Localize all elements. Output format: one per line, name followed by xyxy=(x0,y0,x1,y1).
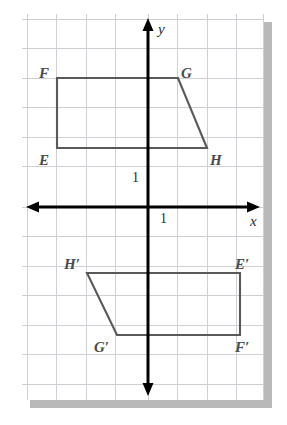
y-axis-label: y xyxy=(158,22,165,37)
y-axis-arrow-down xyxy=(143,383,154,396)
x-axis-arrow-right xyxy=(247,202,260,213)
graph-svg xyxy=(22,14,264,400)
x-axis-arrow-left xyxy=(26,202,39,213)
polygon-HGFE-prime xyxy=(87,273,240,335)
vertex-label-E: E xyxy=(39,153,49,168)
x-axis-label: x xyxy=(250,214,257,229)
y-axis-arrow-up xyxy=(143,18,154,31)
vertex-label-F-prime: F′ xyxy=(235,340,249,355)
vertex-label-G-prime: G′ xyxy=(94,340,109,355)
vertex-label-F: F xyxy=(39,66,49,81)
x-unit-label: 1 xyxy=(160,212,167,226)
y-unit-label: 1 xyxy=(132,171,139,185)
vertex-label-E-prime: E′ xyxy=(235,257,249,272)
x-axis xyxy=(26,202,260,213)
graph-panel: F G E H H′ E′ G′ F′ y x 1 1 xyxy=(22,14,264,400)
coordinate-plane-figure: F G E H H′ E′ G′ F′ y x 1 1 xyxy=(0,0,287,425)
vertex-label-G: G xyxy=(181,66,192,81)
vertex-label-H-prime: H′ xyxy=(64,257,80,272)
vertex-label-H: H xyxy=(210,153,222,168)
